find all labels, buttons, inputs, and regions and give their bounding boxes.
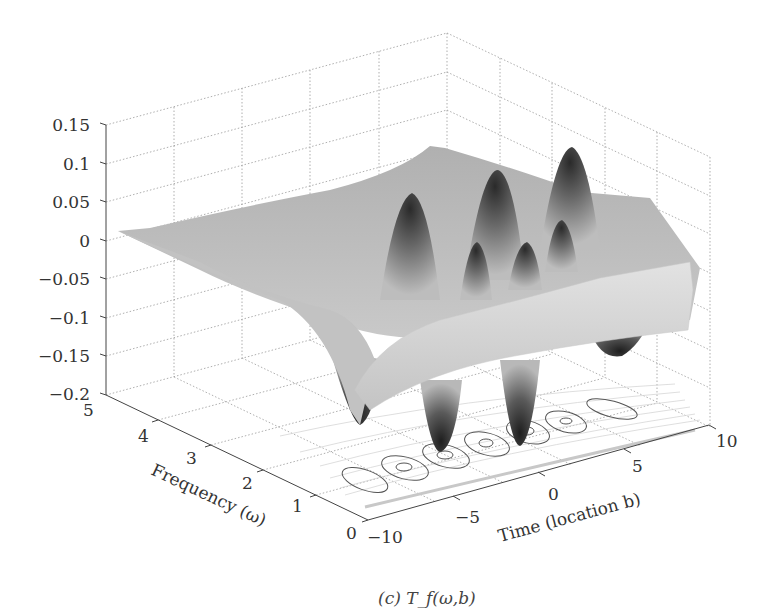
freq-tick-label: 1	[292, 496, 303, 516]
freq-tick-label: 3	[186, 448, 197, 468]
freq-tick-label: 0	[346, 523, 357, 543]
freq-tick-label: 4	[138, 426, 149, 446]
surface	[118, 146, 700, 452]
time-axis: −10 −5 0 5 10 Time (location b)	[367, 425, 738, 547]
figure-caption: (c) T_f(ω,b)	[378, 588, 476, 608]
z-tick-label: 0.1	[63, 154, 90, 174]
time-axis-label: Time (location b)	[496, 489, 643, 546]
freq-tick-label: 5	[83, 400, 94, 420]
time-tick-label: 0	[548, 484, 559, 504]
z-tick-label: −0.05	[38, 269, 90, 289]
z-tick-label: 0.05	[52, 192, 90, 212]
z-tick-label: −0.15	[38, 346, 90, 366]
frequency-axis-label: Frequency (ω)	[148, 459, 269, 530]
time-tick-label: −10	[367, 527, 403, 547]
time-tick-label: 10	[716, 431, 738, 451]
z-tick-label: 0	[79, 231, 90, 251]
time-tick-label: 5	[632, 456, 643, 476]
z-tick-label: −0.1	[49, 308, 90, 328]
freq-tick-label: 2	[242, 473, 253, 493]
frequency-axis: 5 4 3 2 1 0 Frequency (ω)	[83, 395, 368, 543]
z-tick-label: 0.15	[52, 115, 90, 135]
z-axis: 0.15 0.1 0.05 0 −0.05 −0.1 −0.15 −0.2	[38, 115, 106, 404]
time-tick-label: −5	[455, 507, 480, 527]
